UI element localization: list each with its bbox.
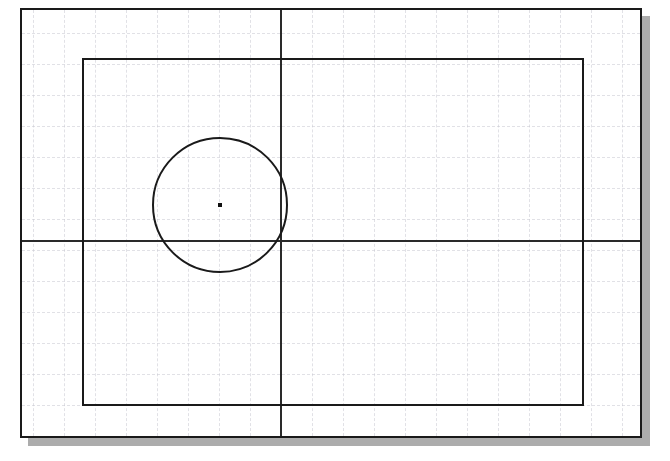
grid-line-vertical-0 <box>33 10 34 436</box>
grid-line-vertical-1 <box>64 10 65 436</box>
grid-line-vertical-18 <box>591 10 592 436</box>
grid-line-horizontal-13 <box>22 436 640 437</box>
drawing-sheet[interactable] <box>20 8 642 438</box>
cad-viewport[interactable] <box>0 0 670 461</box>
grid-line-horizontal-0 <box>22 33 640 34</box>
grid-line-vertical-19 <box>622 10 623 436</box>
circle-center-point[interactable] <box>218 203 222 207</box>
